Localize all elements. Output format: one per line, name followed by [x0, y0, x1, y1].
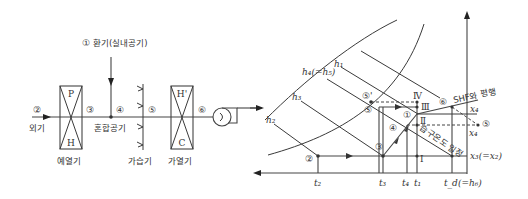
- t2-label: t₂: [314, 178, 322, 188]
- outdoor-air-arrow-icon: [43, 114, 51, 120]
- roman-III-label: Ⅲ: [421, 102, 430, 112]
- point-II-dot: [415, 123, 418, 126]
- arrow-5-icon: [395, 104, 402, 110]
- point-I-dot: [415, 154, 418, 157]
- chart-point-5prime-label: ⑤': [362, 91, 373, 101]
- t4-label: t₄: [402, 178, 410, 188]
- reheater-top-label: H': [177, 89, 187, 99]
- reheater-label: 가열기: [168, 156, 192, 166]
- preheater-bottom-label: H: [67, 138, 75, 148]
- return-air-arrow-icon: [108, 78, 114, 86]
- humidity-axis-arrow-icon: [464, 11, 470, 19]
- x3-label: x₃(=x₂): [470, 151, 502, 161]
- point-3-marker: ③: [86, 105, 94, 115]
- wet-bulb-constant-annotation: 습구온도 일정: [418, 122, 465, 159]
- chart-point-3-label: ③: [375, 142, 383, 152]
- temperature-axis-arrow-icon: [253, 170, 261, 176]
- process-arrow-icon: [346, 153, 353, 159]
- enthalpy-line-top: [361, 51, 440, 98]
- humidifier-label: 가습기: [128, 156, 152, 166]
- connector-arrow-icon: [256, 105, 264, 111]
- point-3-dot: [381, 154, 385, 158]
- td-label: t_d(=h₆): [444, 178, 482, 189]
- chart-point-1-label: ①: [403, 110, 411, 120]
- mixing-point: [109, 115, 113, 119]
- outdoor-air-marker: ②: [33, 105, 41, 115]
- mixing-line: [383, 114, 417, 156]
- roman-I-label: Ⅰ: [420, 154, 424, 164]
- return-air-marker: ①: [82, 38, 90, 48]
- outdoor-air-label: 외기: [29, 123, 45, 133]
- chart-point-6-label: ⑥: [439, 97, 447, 107]
- rh-curve: [268, 24, 424, 155]
- fan-icon: [213, 108, 260, 126]
- point-6-marker: ⑥: [198, 105, 206, 115]
- x4-upper-label: x₄: [470, 104, 479, 114]
- preheater-top-label: P: [68, 89, 74, 99]
- h3-label: h₃: [292, 92, 302, 102]
- point-III-dot: [415, 105, 418, 108]
- point-4-marker: ④: [116, 105, 124, 115]
- point-5-marker: ⑤: [148, 105, 156, 115]
- preheater-label: 예열기: [57, 156, 81, 166]
- t3-label: t₃: [379, 178, 387, 188]
- h4-label: h₄(=h₅): [302, 67, 336, 77]
- enthalpy-line-h4: [327, 79, 452, 156]
- point-5-right-dot: [476, 123, 479, 126]
- roman-IV-label: Ⅳ: [413, 91, 423, 101]
- return-air-label: 환기(실내공기): [93, 38, 148, 48]
- h1-label: h₁: [334, 59, 343, 69]
- air-handling-schematic: P H H' C ① 환기(실내공기) ② 외기 ③ ④ 혼합공: [29, 38, 260, 166]
- point-2-dot: [316, 154, 320, 158]
- point-6-dot: [450, 105, 453, 108]
- reheater-bottom-label: C: [179, 138, 186, 148]
- mixed-air-label: 혼합공기: [94, 123, 126, 133]
- shf-parallel-annotation: SHF와 평행: [452, 86, 497, 105]
- x4-lower-label: x₄: [469, 128, 478, 138]
- psychrometric-diagram: P H H' C ① 환기(실내공기) ② 외기 ③ ④ 혼합공: [0, 0, 528, 199]
- mix-arrow-1-icon: [394, 137, 399, 144]
- chart-point-5-right-label: ⑤: [482, 119, 490, 129]
- t1-label: t₁: [414, 178, 421, 188]
- chart-point-2-label: ②: [305, 154, 313, 164]
- chart-point-5-label: ⑤: [364, 105, 372, 115]
- chart-point-4-label: ④: [389, 123, 397, 133]
- psychrometric-chart: h₁ h₄(=h₅) h₃ h₂ ② ③ ④ ① ⑤ ⑤' ⑤ ⑥ Ⅰ Ⅱ Ⅲ …: [253, 11, 502, 189]
- h2-label: h₂: [266, 115, 276, 125]
